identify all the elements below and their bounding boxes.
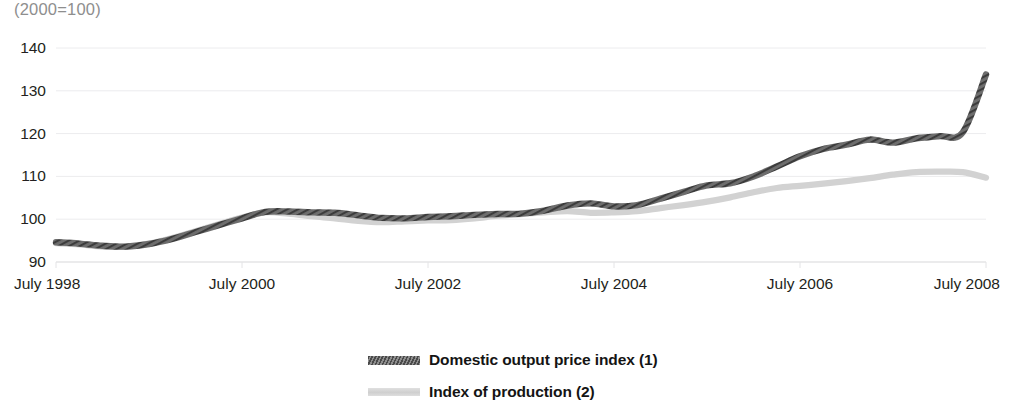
legend-item[interactable]: Index of production (2) bbox=[0, 376, 1010, 408]
x-axis-labels: July 1998July 2000July 2002July 2004July… bbox=[0, 275, 1010, 299]
dark-hatched-line-swatch bbox=[368, 356, 420, 365]
x-axis-tick-label: July 2000 bbox=[209, 275, 275, 293]
x-axis-tick-label: July 1998 bbox=[14, 275, 80, 293]
x-axis-tick-label: July 2006 bbox=[767, 275, 833, 293]
x-axis-tick-label: July 2004 bbox=[581, 275, 647, 293]
plot-svg bbox=[56, 48, 986, 262]
plot-area bbox=[56, 48, 986, 262]
y-axis-tick-label: 100 bbox=[20, 210, 46, 228]
chart-figure: (2000=100) 90100110120130140 July 1998Ju… bbox=[0, 0, 1010, 417]
y-axis-labels: 90100110120130140 bbox=[0, 48, 46, 262]
y-axis-tick-label: 120 bbox=[20, 125, 46, 143]
light-gray-line-swatch bbox=[368, 388, 420, 396]
legend-item-label: Domestic output price index (1) bbox=[429, 351, 658, 369]
series-line bbox=[56, 172, 986, 247]
y-axis-tick-label: 140 bbox=[20, 39, 46, 57]
series-line bbox=[56, 75, 986, 247]
y-axis-tick-label: 110 bbox=[21, 167, 46, 185]
x-axis-tick-label: July 2002 bbox=[395, 275, 461, 293]
y-axis-tick-label: 130 bbox=[20, 82, 46, 100]
x-axis-tick-marks bbox=[56, 262, 986, 268]
x-axis-tick-label: July 2008 bbox=[934, 275, 1000, 293]
legend-item-label: Index of production (2) bbox=[429, 383, 595, 401]
legend-item[interactable]: Domestic output price index (1) bbox=[0, 344, 1010, 376]
series-layer bbox=[56, 75, 986, 247]
chart-legend: Domestic output price index (1)Index of … bbox=[0, 344, 1010, 408]
unit-note: (2000=100) bbox=[14, 0, 101, 19]
y-axis-tick-label: 90 bbox=[29, 253, 46, 271]
